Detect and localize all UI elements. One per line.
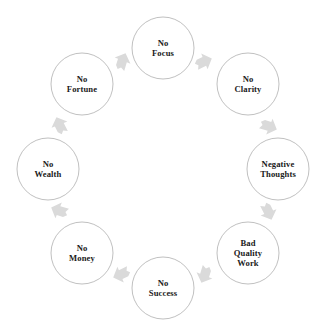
node-circle-no-clarity[interactable]: [217, 53, 279, 115]
arrow-no-money-to-no-wealth-icon: [48, 200, 71, 222]
arrow-no-focus-to-no-clarity-icon: [192, 51, 215, 73]
cycle-diagram: NoFocusNoClarityNegativeThoughtsBadQuali…: [0, 0, 326, 332]
node-circle-no-success[interactable]: [132, 257, 194, 319]
arrow-no-clarity-to-negative-thoughts-icon: [257, 115, 280, 137]
arrow-bad-quality-work-to-no-success-icon: [194, 263, 216, 286]
node-circle-bad-quality-work[interactable]: [217, 222, 279, 284]
cycle-diagram-canvas: [0, 0, 326, 332]
arrow-negative-thoughts-to-bad-quality-work-icon: [257, 200, 279, 223]
arrow-no-success-to-no-money-icon: [110, 263, 133, 285]
node-circle-no-fortune[interactable]: [51, 53, 113, 115]
node-circle-no-money[interactable]: [51, 222, 113, 284]
node-circle-negative-thoughts[interactable]: [247, 138, 309, 200]
node-circle-no-focus[interactable]: [132, 17, 194, 79]
circles-layer: [17, 17, 309, 319]
arrow-no-wealth-to-no-fortune-icon: [49, 114, 71, 137]
arrow-no-fortune-to-no-focus-icon: [111, 50, 133, 73]
node-circle-no-wealth[interactable]: [17, 138, 79, 200]
